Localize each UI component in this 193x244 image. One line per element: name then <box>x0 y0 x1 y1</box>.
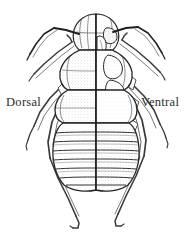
figure-container: Dorsal Ventral <box>0 0 193 244</box>
dorsal-mesonotum <box>55 90 96 123</box>
ventral-mesothorax <box>96 90 137 123</box>
ventral-body-half <box>96 14 139 191</box>
insect-illustration <box>0 0 193 244</box>
ventral-label: Ventral <box>141 96 179 109</box>
dorsal-label: Dorsal <box>6 96 41 109</box>
dorsal-body-half <box>53 14 96 191</box>
